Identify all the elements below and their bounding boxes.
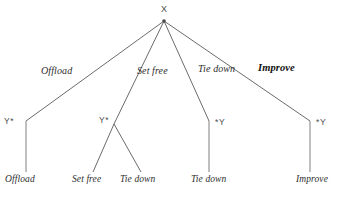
tree-diagram: X Offload Set free Tie down Improve Y* Y… <box>0 0 347 198</box>
root-node-label: X <box>161 5 167 14</box>
mid-node-label-tie-down: *Y <box>215 118 225 127</box>
leaf-label-set-free: Set free <box>72 175 101 185</box>
leaf-label-offload: Offload <box>5 175 35 185</box>
edge-label-set-free: Set free <box>137 66 168 76</box>
branch-setfree <box>93 124 114 172</box>
mid-node-label-offload: Y* <box>4 117 14 126</box>
edge-label-tie-down: Tie down <box>198 64 235 74</box>
branch-tiedown <box>114 124 141 172</box>
leaf-label-tie-down-left: Tie down <box>120 175 155 185</box>
leaf-label-improve: Improve <box>296 175 328 185</box>
edge-label-improve: Improve <box>258 63 295 74</box>
root-node-dot <box>162 19 166 23</box>
edge-label-offload: Offload <box>41 66 72 76</box>
tree-edges-svg <box>0 0 347 198</box>
mid-node-label-improve: *Y <box>316 118 326 127</box>
leaf-label-tie-down-right: Tie down <box>191 175 226 185</box>
mid-node-label-set-free: Y* <box>99 116 109 125</box>
